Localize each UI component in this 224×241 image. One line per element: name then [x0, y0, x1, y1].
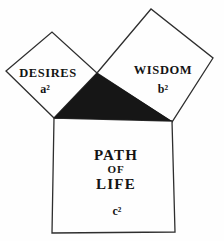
wisdom-symbol: b² [158, 82, 169, 96]
path-symbol: c² [113, 204, 122, 218]
desires-symbol: a² [40, 82, 50, 96]
desires-label: DESIRES [19, 66, 77, 80]
pythagorean-diagram: DESIRES a² WISDOM b² PATH OF LIFE c² [0, 0, 224, 241]
path-label-line1: PATH [94, 147, 138, 163]
diagram-canvas: DESIRES a² WISDOM b² PATH OF LIFE c² [0, 0, 224, 241]
path-label-line2: OF [108, 163, 125, 175]
path-label-line3: LIFE [96, 176, 136, 192]
wisdom-label: WISDOM [134, 63, 192, 77]
